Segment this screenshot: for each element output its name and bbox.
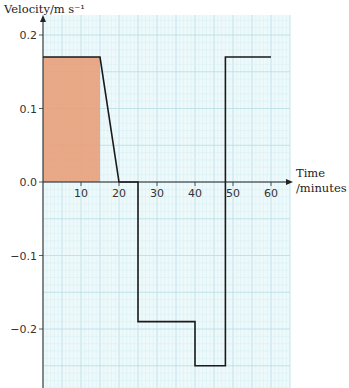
x-axis-label-line2: /minutes: [296, 181, 347, 195]
svg-text:50: 50: [226, 187, 240, 200]
velocity-time-chart: 1020304050600.20.10.0−0.1−0.2 Velocity/m…: [0, 0, 349, 388]
svg-text:40: 40: [188, 187, 202, 200]
svg-text:20: 20: [112, 187, 126, 200]
shaded-area: [43, 57, 100, 182]
svg-text:0.1: 0.1: [20, 103, 38, 116]
svg-text:0.0: 0.0: [20, 176, 38, 189]
y-axis-label: Velocity/m s⁻¹: [3, 2, 85, 16]
x-axis-label-line1: Time: [296, 166, 325, 180]
svg-text:−0.2: −0.2: [10, 323, 37, 336]
svg-text:60: 60: [264, 187, 278, 200]
svg-text:−0.1: −0.1: [10, 250, 37, 263]
svg-text:30: 30: [150, 187, 164, 200]
svg-text:10: 10: [74, 187, 88, 200]
svg-text:0.2: 0.2: [20, 29, 38, 42]
